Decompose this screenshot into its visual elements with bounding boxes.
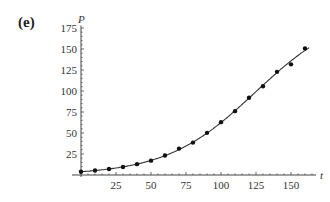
data-point [191, 140, 195, 144]
y-tick-label: 50 [66, 127, 78, 139]
x-tick-label: 100 [213, 179, 230, 191]
y-axis-label: P [77, 13, 85, 25]
data-point [233, 109, 237, 113]
data-point [219, 120, 223, 124]
y-tick-label: 75 [66, 106, 78, 118]
data-points [79, 46, 307, 174]
y-tick-label: 150 [61, 43, 78, 55]
y-tick-label: 125 [61, 64, 78, 76]
data-point [177, 146, 181, 150]
y-tick-label: 25 [66, 148, 78, 160]
data-point [149, 158, 153, 162]
x-tick-label: 25 [111, 179, 123, 191]
data-point [205, 131, 209, 135]
y-tick-label: 100 [61, 85, 78, 97]
data-point [275, 70, 279, 74]
data-point [303, 46, 307, 50]
x-tick-label: 50 [146, 179, 158, 191]
x-tick-label: 150 [283, 179, 300, 191]
data-point [289, 62, 293, 66]
x-axis-label: t [320, 169, 324, 181]
data-point [135, 162, 139, 166]
x-tick-label: 125 [248, 179, 265, 191]
panel-label: (e) [18, 14, 35, 31]
axes: 255075100125150255075100125150175tP [61, 13, 325, 191]
data-point [247, 96, 251, 100]
data-point [121, 165, 125, 169]
chart: (e) 255075100125150255075100125150175tP [0, 0, 330, 202]
data-point [107, 167, 111, 171]
data-point [79, 170, 83, 174]
model-curve [81, 48, 309, 172]
data-point [163, 153, 167, 157]
y-tick-label: 175 [61, 22, 78, 34]
data-point [93, 168, 97, 172]
data-point [261, 84, 265, 88]
x-tick-label: 75 [181, 179, 193, 191]
